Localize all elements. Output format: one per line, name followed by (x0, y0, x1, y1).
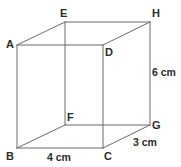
dimension-label-height: 6 cm (152, 67, 176, 78)
vertex-label-C: C (104, 151, 112, 162)
vertex-label-D: D (105, 47, 113, 58)
vertex-label-G: G (152, 120, 161, 131)
edge-B-F (17, 125, 65, 148)
diagram-canvas: A E H D F G B C 6 cm 3 cm 4 cm (0, 0, 181, 167)
vertex-label-E: E (60, 8, 67, 19)
dimension-label-width: 4 cm (47, 152, 71, 163)
vertex-label-F: F (67, 112, 74, 123)
edge-D-H (103, 22, 150, 45)
edge-A-E (17, 22, 65, 45)
vertex-label-A: A (6, 39, 14, 50)
vertex-label-B: B (6, 151, 14, 162)
dimension-label-depth: 3 cm (133, 137, 157, 148)
vertex-label-H: H (152, 8, 160, 19)
